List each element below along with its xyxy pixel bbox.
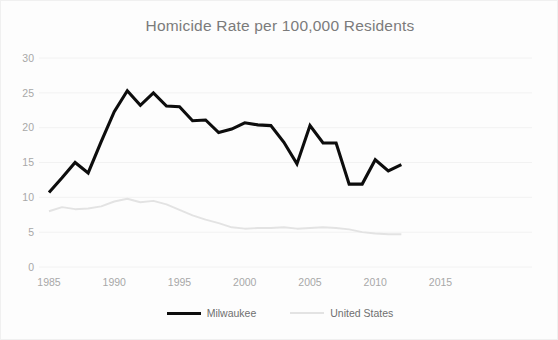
legend-swatch-united-states xyxy=(290,312,324,314)
series-line-united-states xyxy=(49,199,401,235)
y-axis-tick-label: 20 xyxy=(22,121,34,133)
y-axis-tick-labels: 051015202530 xyxy=(22,52,34,273)
y-axis-tick-label: 15 xyxy=(22,156,34,168)
chart-legend: Milwaukee United States xyxy=(1,307,558,319)
x-axis-tick-label: 1995 xyxy=(168,276,192,288)
series-line-milwaukee xyxy=(49,91,401,193)
y-axis-tick-label: 30 xyxy=(22,52,34,64)
x-axis-tick-label: 1990 xyxy=(103,276,127,288)
y-axis-tick-label: 10 xyxy=(22,191,34,203)
legend-label-united-states: United States xyxy=(330,307,393,319)
chart-plot-area: 051015202530 198519901995200020052010201… xyxy=(1,1,558,340)
y-axis-tick-label: 5 xyxy=(28,226,34,238)
x-axis-tick-label: 2015 xyxy=(429,276,453,288)
legend-item-milwaukee[interactable]: Milwaukee xyxy=(167,307,257,319)
legend-item-united-states[interactable]: United States xyxy=(290,307,393,319)
x-axis-tick-label: 1985 xyxy=(37,276,61,288)
gridlines-group xyxy=(39,58,532,267)
x-axis-tick-labels: 1985199019952000200520102015 xyxy=(37,276,452,288)
legend-swatch-milwaukee xyxy=(167,312,201,315)
y-axis-tick-label: 0 xyxy=(28,261,34,273)
legend-label-milwaukee: Milwaukee xyxy=(207,307,257,319)
x-axis-tick-label: 2005 xyxy=(298,276,322,288)
x-axis-tick-label: 2000 xyxy=(233,276,257,288)
chart-container: Homicide Rate per 100,000 Residents 0510… xyxy=(0,0,558,340)
y-axis-tick-label: 25 xyxy=(22,87,34,99)
x-axis-tick-label: 2010 xyxy=(364,276,388,288)
